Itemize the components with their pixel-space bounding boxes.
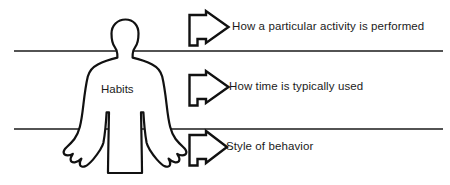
diagram-canvas: Habits How a particular activity is perf… bbox=[0, 0, 450, 185]
figure-label-habits: Habits bbox=[101, 84, 134, 96]
right-arrow-icon-1 bbox=[190, 11, 229, 46]
human-silhouette-icon bbox=[64, 20, 187, 174]
callout-label-2: How time is typically used bbox=[229, 81, 363, 93]
callout-label-1: How a particular activity is performed bbox=[232, 21, 424, 33]
right-arrow-icon-2 bbox=[190, 71, 229, 106]
right-arrow-icon-3 bbox=[190, 131, 228, 166]
callout-label-3: Style of behavior bbox=[226, 141, 313, 153]
